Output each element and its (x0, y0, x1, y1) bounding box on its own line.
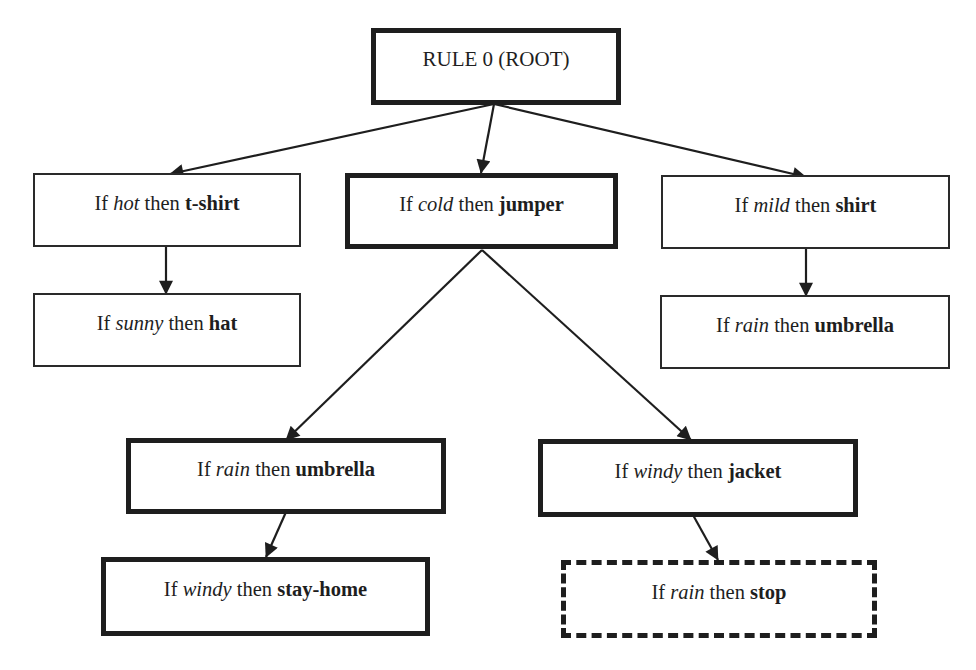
edge-root-hot (170, 104, 494, 174)
rule-condition: mild (753, 194, 789, 216)
rule-then: then (163, 312, 209, 334)
rule-then: then (682, 460, 728, 482)
root-rule-node: RULE 0 (ROOT) (371, 28, 621, 105)
rule-action: umbrella (296, 458, 375, 480)
rule-then: then (704, 581, 750, 603)
rule-node-sunny: If sunny then hat (33, 293, 301, 367)
rule-then: then (232, 578, 278, 600)
rule-if: If (94, 192, 113, 214)
rule-node-windy-rain: If rain then stop (561, 560, 877, 638)
rule-action: hat (209, 312, 237, 334)
rule-then: then (790, 194, 836, 216)
rule-action: umbrella (815, 314, 894, 336)
rule-condition: windy (183, 578, 232, 600)
root-rule-label: RULE 0 (ROOT) (423, 47, 570, 72)
edge-coldwindy-windyrain (693, 515, 718, 560)
rule-if: If (735, 194, 754, 216)
rule-node-cold: If cold then jumper (345, 173, 618, 249)
rule-action: jacket (728, 460, 782, 482)
rule-if: If (97, 312, 116, 334)
rule-action: t-shirt (185, 192, 240, 214)
rule-condition: rain (216, 458, 250, 480)
rule-action: shirt (835, 194, 876, 216)
rule-condition: rain (670, 581, 704, 603)
rule-node-rain-windy: If windy then stay-home (101, 557, 430, 636)
rule-if: If (615, 460, 634, 482)
rule-then: then (250, 458, 296, 480)
rule-condition: cold (418, 193, 453, 215)
rule-action: stay-home (277, 578, 367, 600)
rule-node-cold-rain: If rain then umbrella (126, 438, 446, 514)
rule-condition: hot (113, 192, 139, 214)
edge-coldrain-rainwindy (266, 512, 286, 557)
rule-node-hot: If hot then t-shirt (33, 173, 301, 247)
rule-then: then (139, 192, 185, 214)
edge-cold-coldrain (286, 250, 482, 440)
rule-node-mild: If mild then shirt (661, 175, 950, 249)
rule-node-cold-windy: If windy then jacket (538, 439, 858, 517)
rule-tree-diagram: RULE 0 (ROOT) If hot then t-shirt If col… (0, 0, 976, 670)
rule-if: If (716, 314, 735, 336)
edge-root-mild (494, 104, 806, 177)
rule-condition: rain (735, 314, 769, 336)
rule-if: If (399, 193, 418, 215)
rule-node-mild-rain: If rain then umbrella (660, 295, 950, 369)
rule-condition: windy (633, 460, 682, 482)
rule-if: If (197, 458, 216, 480)
rule-condition: sunny (115, 312, 163, 334)
rule-if: If (652, 581, 671, 603)
edge-root-cold (481, 104, 494, 173)
rule-then: then (453, 193, 499, 215)
rule-then: then (769, 314, 815, 336)
rule-action: jumper (499, 193, 564, 215)
rule-action: stop (750, 581, 786, 603)
rule-if: If (164, 578, 183, 600)
